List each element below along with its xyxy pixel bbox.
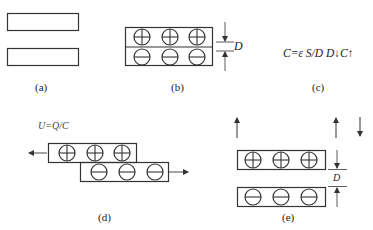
panel-c-formula: C=ε S/D D↓C↑: [283, 47, 353, 59]
bottom-plate: [8, 49, 79, 66]
panel-d-sliding-plates: [29, 144, 188, 182]
panel-d-formula: U=Q/C: [38, 120, 69, 131]
negative-charge-icon: [147, 164, 163, 180]
top-plate: [8, 14, 79, 31]
panel-a-plates: [8, 14, 79, 66]
panel-c-caption: (c): [312, 81, 324, 93]
panel-b-dielectric: [126, 22, 235, 71]
negative-charge-icon: [134, 49, 150, 65]
positive-charge-icon: [245, 152, 261, 168]
panel-a-caption: (a): [35, 81, 47, 93]
capacitor-diagram: [0, 0, 373, 230]
negative-charge-icon: [119, 164, 135, 180]
panel-b-dimension-label: D: [234, 39, 243, 54]
panel-b-caption: (b): [171, 81, 184, 93]
negative-charge-icon: [273, 189, 289, 205]
negative-charge-icon: [91, 164, 107, 180]
panel-d-caption: (d): [98, 211, 111, 223]
negative-charge-icon: [189, 49, 205, 65]
positive-charge-icon: [134, 29, 150, 45]
positive-charge-icon: [87, 145, 103, 161]
positive-charge-icon: [189, 29, 205, 45]
positive-charge-icon: [114, 145, 130, 161]
positive-charge-icon: [301, 152, 317, 168]
positive-charge-icon: [273, 152, 289, 168]
panel-e-dimension-label: D: [333, 172, 340, 183]
panel-e-caption: (e): [282, 211, 294, 223]
negative-charge-icon: [301, 189, 317, 205]
positive-charge-icon: [162, 29, 178, 45]
negative-charge-icon: [245, 189, 261, 205]
negative-charge-icon: [162, 49, 178, 65]
panel-e-separated-plates: [237, 117, 360, 207]
positive-charge-icon: [59, 145, 75, 161]
